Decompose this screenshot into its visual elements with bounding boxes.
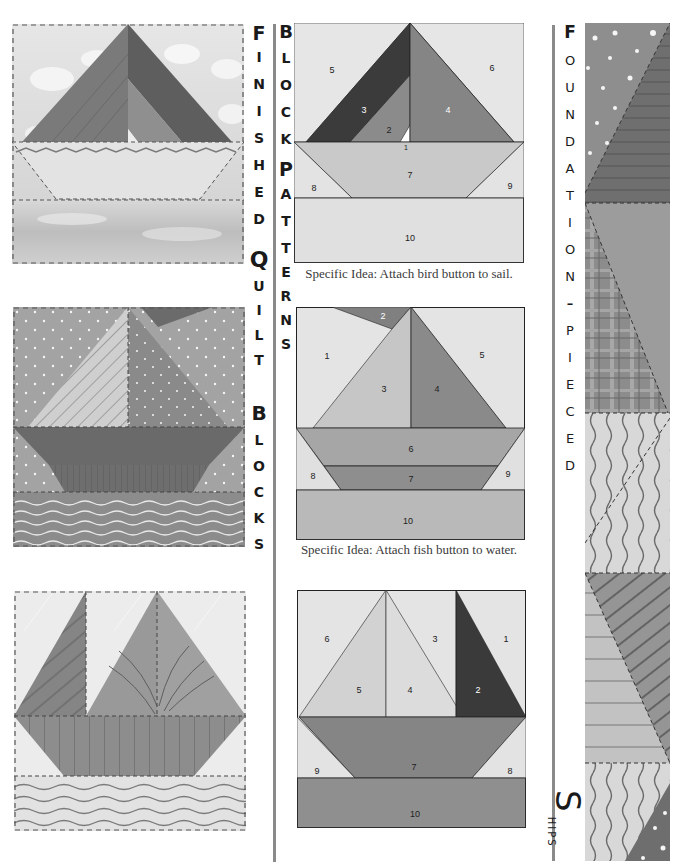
piece-label: 10: [410, 809, 420, 819]
title-letter: O: [565, 54, 575, 81]
ships-big-letter: S: [548, 790, 588, 812]
piece-label: 8: [311, 183, 316, 193]
title-letter: A: [281, 187, 292, 214]
title-letter: N: [565, 270, 575, 297]
ships-rest: HIPS: [546, 817, 557, 848]
piece-label: 2: [475, 685, 480, 695]
piece-label: 1: [404, 144, 408, 151]
pattern-diagram-1: 5 6 3 2 1 4 7 8 9 10: [294, 23, 524, 263]
finished-quilt-1: [12, 24, 244, 264]
piece-label: 8: [310, 471, 315, 481]
title-letter: L: [255, 433, 264, 459]
piece-label: 6: [324, 634, 329, 644]
piece-label: 7: [407, 170, 412, 180]
title-letter: E: [566, 378, 574, 405]
title-letter: C: [254, 485, 264, 511]
title-letter: I: [256, 303, 261, 328]
piece-label: 1: [324, 351, 329, 361]
pattern-diagram-3: 6 5 4 3 2 1 7 9 8 10: [297, 590, 526, 828]
title-letter: D: [253, 212, 265, 252]
title-letter: O: [565, 243, 575, 270]
piece-label: 5: [329, 65, 334, 75]
sailboat-quilt-image-1: [12, 24, 244, 264]
piece-label: 4: [407, 685, 412, 695]
title-letter: N: [280, 313, 292, 337]
title-letter: S: [254, 537, 264, 563]
title-letter: A: [566, 162, 575, 189]
piece-label: 7: [411, 762, 416, 772]
title-letter: K: [254, 511, 265, 537]
piece-label: 10: [403, 516, 413, 526]
title-letter: O: [253, 459, 265, 485]
ships-label: S HIPS: [548, 790, 588, 860]
title-letter: N: [253, 77, 265, 104]
sailboat-quilt-image-2: [13, 307, 245, 547]
title-letter: R: [281, 289, 292, 313]
title-letter: H: [253, 158, 265, 185]
title-letter: D: [565, 135, 575, 162]
title-letter: T: [281, 241, 291, 265]
block-pattern-1: 5 6 3 2 1 4 7 8 9 10: [294, 23, 524, 263]
piece-label: 9: [505, 469, 510, 479]
piece-label: 10: [405, 233, 415, 243]
title-letter: E: [566, 432, 574, 459]
piece-label: 6: [408, 444, 413, 454]
pattern-2-caption: Specific Idea: Attach fish button to wat…: [294, 542, 524, 558]
vertical-title-block-patterns: B L O C K P A T T E R N S: [276, 23, 296, 361]
fabric-strip: [585, 23, 670, 861]
title-letter: I: [256, 104, 261, 131]
piece-label: 1: [503, 634, 508, 644]
title-letter: O: [280, 78, 292, 105]
title-letter: B: [279, 23, 293, 51]
title-letter: I: [568, 216, 572, 243]
piece-label: 3: [432, 634, 437, 644]
vertical-title-finished-quilt-blocks: F I N I S H E D Q U I L T B L O C K S: [246, 24, 272, 563]
fabric-strip-image: [585, 23, 670, 861]
title-letter: B: [251, 403, 266, 433]
piece-label: 5: [479, 350, 484, 360]
title-letter: I: [568, 351, 572, 378]
piece-label: 2: [386, 125, 391, 135]
block-pattern-3: 6 5 4 3 2 1 7 9 8 10: [297, 590, 526, 828]
piece-label: 4: [434, 384, 439, 394]
title-letter: C: [281, 105, 291, 132]
piece-label: 3: [381, 384, 386, 394]
title-letter: F: [564, 24, 576, 54]
title-letter: C: [565, 405, 574, 432]
title-letter: E: [254, 185, 264, 212]
title-letter: S: [254, 131, 264, 158]
title-letter: U: [253, 279, 264, 303]
block-pattern-2: 2 1 3 4 5 6 7 8 9 10: [296, 307, 525, 540]
finished-quilt-2: [13, 307, 245, 547]
title-letter: N: [565, 108, 575, 135]
title-letter: E: [281, 265, 291, 289]
piece-label: 9: [314, 766, 319, 776]
title-letter: T: [254, 353, 264, 403]
title-letter: –: [567, 297, 574, 324]
title-letter: P: [279, 160, 293, 187]
piece-label: 5: [356, 685, 361, 695]
piece-label: 3: [361, 105, 366, 115]
title-letter: T: [566, 189, 574, 216]
title-letter: T: [281, 214, 291, 241]
piece-label: 7: [408, 474, 413, 484]
piece-label: 2: [380, 311, 385, 321]
column-divider-right: [552, 25, 555, 861]
title-letter: S: [281, 337, 291, 361]
title-letter: Q: [250, 249, 269, 279]
title-letter: P: [566, 324, 574, 351]
vertical-title-foundation-pieced: F O U N D A T I O N – P I E C E D: [558, 24, 582, 486]
title-letter: L: [255, 328, 264, 353]
pattern-1-caption: Specific Idea: Attach bird button to sai…: [294, 266, 524, 282]
piece-label: 9: [507, 181, 512, 191]
title-letter: F: [253, 24, 266, 50]
finished-quilt-3: [14, 591, 246, 831]
piece-label: 4: [445, 105, 450, 115]
sailboat-quilt-image-3: [14, 591, 246, 831]
title-letter: L: [282, 51, 291, 78]
pattern-diagram-2: 2 1 3 4 5 6 7 8 9 10: [296, 307, 525, 540]
title-letter: I: [256, 50, 261, 77]
title-letter: D: [565, 459, 575, 486]
title-letter: U: [565, 81, 575, 108]
piece-label: 8: [507, 766, 512, 776]
